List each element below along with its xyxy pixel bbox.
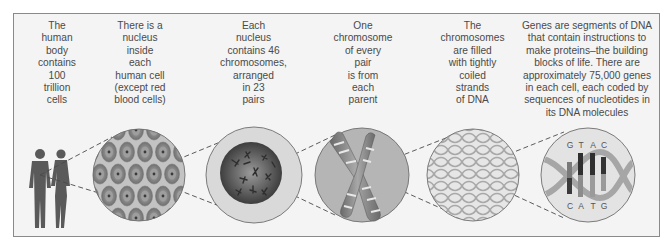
svg-text:T: T [578, 140, 583, 150]
svg-text:C: C [567, 201, 573, 211]
svg-text:A: A [578, 201, 584, 211]
svg-text:A: A [590, 140, 596, 150]
cells-circle-icon [0, 0, 189, 228]
svg-text:C: C [601, 140, 607, 150]
dna-helix-icon [538, 128, 640, 222]
svg-text:G: G [601, 201, 608, 211]
svg-text:T: T [590, 201, 595, 211]
human-figures-icon [29, 149, 70, 228]
nucleus-circle-icon [206, 127, 302, 223]
coiled-dna-icon [427, 129, 519, 221]
chromosome-pair-icon [315, 128, 409, 222]
svg-text:G: G [567, 140, 574, 150]
